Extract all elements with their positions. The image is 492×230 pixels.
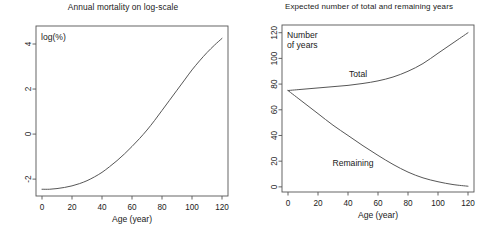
series-label-total: Total (349, 69, 367, 79)
x-tick-label: 20 (313, 199, 323, 208)
y-tick-label: -2 (25, 175, 34, 183)
y-tick-label: 0 (271, 184, 280, 189)
y-tick-label: 2 (25, 86, 34, 91)
y-tick-label: 60 (271, 105, 280, 115)
plot-frame (36, 26, 228, 196)
x-tick-label: 120 (461, 199, 475, 208)
x-tick-label: 60 (127, 203, 137, 212)
y-tick-label: 120 (271, 25, 280, 39)
x-axis-label: Age (year) (358, 210, 398, 220)
annotation-number-of-years-line2: of years (287, 40, 318, 50)
series-line-log-annual-mortality- (42, 38, 222, 189)
panel-left: Annual mortality on log-scale 0204060801… (0, 0, 246, 230)
series-line-remaining (288, 91, 468, 187)
y-tick-label: 0 (25, 131, 34, 136)
x-tick-label: 80 (157, 203, 167, 212)
x-tick-label: 100 (431, 199, 445, 208)
series-label-remaining: Remaining (332, 158, 373, 168)
x-tick-label: 40 (343, 199, 353, 208)
x-axis-label: Age (year) (112, 214, 152, 224)
panel-right-plot: 020406080100120Age (year)020406080100120… (246, 0, 492, 230)
x-tick-label: 40 (97, 203, 107, 212)
x-tick-label: 0 (40, 203, 45, 212)
y-tick-label: 20 (271, 156, 280, 166)
x-tick-label: 60 (373, 199, 383, 208)
x-tick-label: 100 (185, 203, 199, 212)
y-tick-label: 80 (271, 79, 280, 89)
y-tick-label: 100 (271, 51, 280, 65)
panel-right: Expected number of total and remaining y… (246, 0, 492, 230)
y-tick-label: 4 (25, 41, 34, 46)
annotation-log-percent: log(%) (41, 32, 66, 42)
figure-two-panel-mortality: Annual mortality on log-scale 0204060801… (0, 0, 492, 230)
x-tick-label: 0 (286, 199, 291, 208)
x-tick-label: 120 (215, 203, 229, 212)
x-tick-label: 20 (67, 203, 77, 212)
x-tick-label: 80 (403, 199, 413, 208)
panel-left-plot: 020406080100120Age (year)-2024log(%) (0, 0, 246, 230)
y-tick-label: 40 (271, 130, 280, 140)
annotation-number-of-years-line1: Number (287, 30, 318, 40)
